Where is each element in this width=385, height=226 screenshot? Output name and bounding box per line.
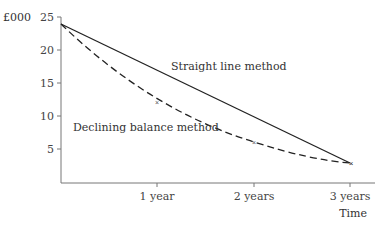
marker-3: × (349, 159, 354, 168)
declining-balance-label: Declining balance method (73, 121, 219, 134)
marker-1: × (155, 99, 159, 106)
y-tick-10: 10 (40, 110, 54, 123)
y-tick-20: 20 (40, 44, 54, 57)
y-axis-unit: £000 (3, 11, 31, 24)
x-axis-title: Time (339, 207, 367, 220)
straight-line-series (61, 24, 350, 163)
y-tick-15: 15 (40, 77, 54, 90)
y-tick-25: 25 (40, 11, 54, 24)
x-tick-3-years: 3 years (330, 190, 371, 203)
marker-2: × (252, 139, 256, 146)
straight-line-label: Straight line method (171, 60, 287, 73)
depreciation-chart: £000 25 20 15 10 5 1 year 2 years 3 year… (0, 0, 385, 226)
x-tick-2-years: 2 years (234, 190, 275, 203)
x-tick-1-year: 1 year (139, 190, 175, 203)
y-tick-5: 5 (47, 143, 54, 156)
